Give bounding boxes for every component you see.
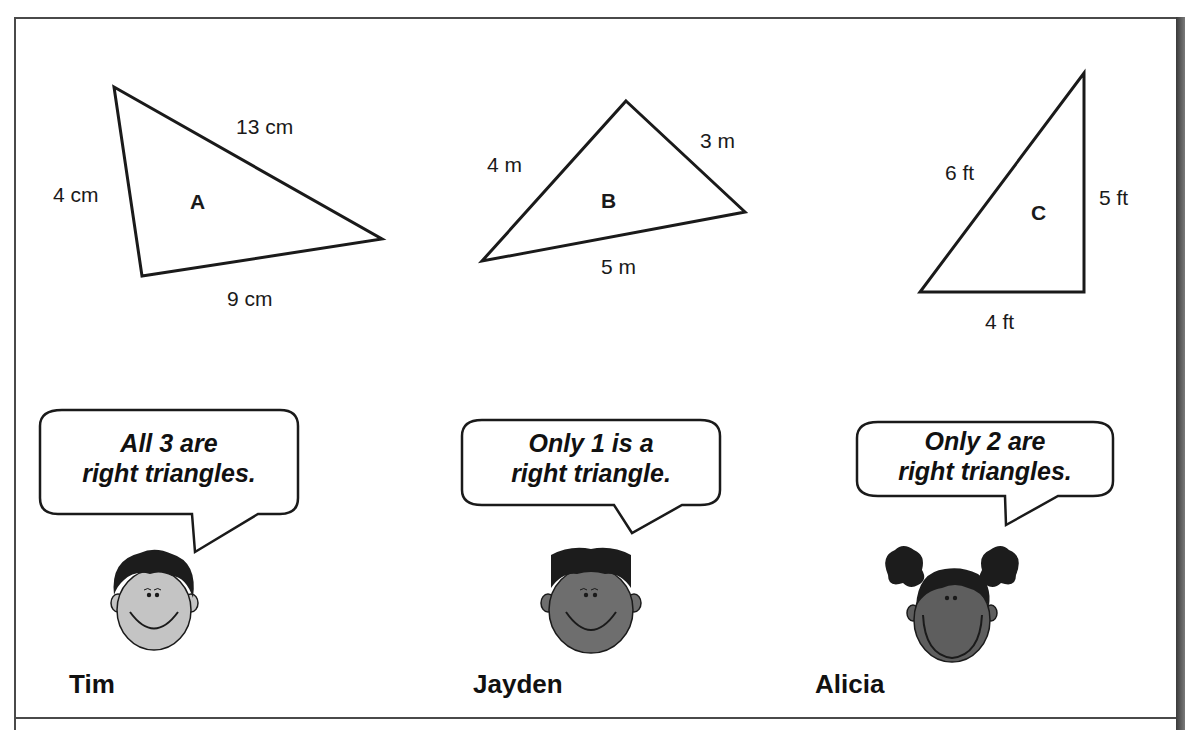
student-name-tim: Tim (69, 671, 115, 697)
triangle-b-side-left: 4 m (487, 154, 522, 175)
triangle-c-side-right: 5 ft (1099, 187, 1128, 208)
student-name-alicia: Alicia (815, 671, 884, 697)
triangle-b-side-right: 3 m (700, 130, 735, 151)
triangle-a-side-left: 4 cm (53, 184, 99, 205)
jayden-face-icon (541, 548, 641, 653)
jayden-claim-line1: Only 1 is a (462, 428, 720, 458)
alicia-claim: Only 2 are right triangles. (857, 426, 1113, 486)
triangle-b-shape (482, 101, 745, 261)
triangle-c-side-bottom: 4 ft (985, 311, 1014, 332)
triangle-a-side-top: 13 cm (236, 116, 293, 137)
tim-face-icon (111, 550, 198, 650)
alicia-face-icon (885, 546, 1019, 662)
student-name-jayden: Jayden (473, 671, 563, 697)
jayden-claim-line2: right triangle. (462, 458, 720, 488)
tim-claim-line1: All 3 are (40, 428, 298, 458)
tim-claim: All 3 are right triangles. (40, 428, 298, 488)
triangle-a-side-bottom: 9 cm (227, 288, 273, 309)
diagram-art (0, 0, 1185, 730)
triangle-a-label: A (190, 191, 205, 212)
triangle-b-label: B (601, 190, 616, 211)
alicia-claim-line1: Only 2 are (857, 426, 1113, 456)
tim-claim-line2: right triangles. (40, 458, 298, 488)
triangle-c-side-hypotenuse: 6 ft (945, 162, 974, 183)
alicia-claim-line2: right triangles. (857, 456, 1113, 486)
triangle-b-side-bottom: 5 m (601, 256, 636, 277)
triangle-c-label: C (1031, 202, 1046, 223)
jayden-claim: Only 1 is a right triangle. (462, 428, 720, 488)
